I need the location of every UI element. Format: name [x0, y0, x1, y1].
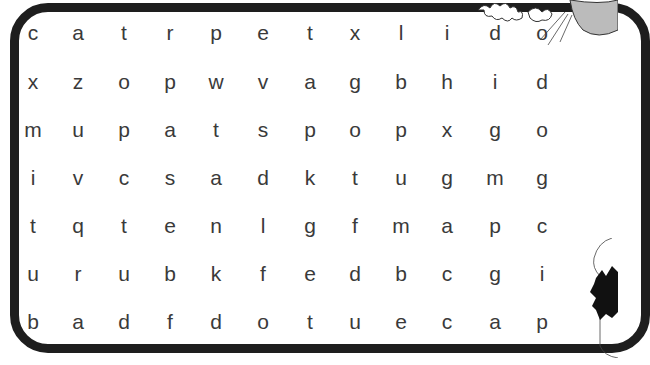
grid-letter[interactable]: d	[243, 166, 283, 190]
grid-letter[interactable]: e	[381, 310, 421, 334]
grid-letter[interactable]: s	[243, 118, 283, 142]
grid-letter[interactable]: p	[475, 214, 515, 238]
grid-letter[interactable]: x	[335, 21, 375, 45]
grid-letter[interactable]: h	[427, 70, 467, 94]
grid-letter[interactable]: a	[150, 118, 190, 142]
grid-letter[interactable]: a	[58, 310, 98, 334]
grid-letter[interactable]: t	[104, 214, 144, 238]
grid-letter[interactable]: a	[427, 214, 467, 238]
grid-letter[interactable]: o	[243, 310, 283, 334]
grid-letter[interactable]: u	[335, 310, 375, 334]
grid-letter[interactable]: v	[243, 70, 283, 94]
grid-letter[interactable]: o	[335, 118, 375, 142]
grid-letter[interactable]: p	[381, 118, 421, 142]
grid-letter[interactable]: p	[290, 118, 330, 142]
grid-letter[interactable]: s	[150, 166, 190, 190]
grid-letter[interactable]: t	[104, 21, 144, 45]
grid-letter[interactable]: u	[58, 118, 98, 142]
grid-letter[interactable]: b	[150, 262, 190, 286]
grid-letter[interactable]: u	[104, 262, 144, 286]
grid-letter[interactable]: p	[104, 118, 144, 142]
grid-letter[interactable]: b	[13, 310, 53, 334]
grid-letter[interactable]: z	[58, 70, 98, 94]
grid-letter[interactable]: a	[475, 310, 515, 334]
character-illustration-icon	[590, 238, 618, 358]
grid-letter[interactable]: o	[522, 118, 562, 142]
grid-letter[interactable]: p	[150, 70, 190, 94]
grid-letter[interactable]: m	[381, 214, 421, 238]
grid-letter[interactable]: c	[13, 21, 53, 45]
grid-letter[interactable]: t	[290, 310, 330, 334]
grid-letter[interactable]: x	[427, 118, 467, 142]
grid-letter[interactable]: a	[58, 21, 98, 45]
grid-letter[interactable]: g	[427, 166, 467, 190]
grid-letter[interactable]: g	[522, 166, 562, 190]
grid-letter[interactable]: u	[13, 262, 53, 286]
grid-letter[interactable]: g	[290, 214, 330, 238]
grid-letter[interactable]: t	[290, 21, 330, 45]
grid-letter[interactable]: r	[150, 21, 190, 45]
grid-letter[interactable]: w	[196, 70, 236, 94]
grid-letter[interactable]: t	[335, 166, 375, 190]
grid-letter[interactable]: e	[290, 262, 330, 286]
grid-letter[interactable]: a	[290, 70, 330, 94]
grid-letter[interactable]: k	[196, 262, 236, 286]
grid-letter[interactable]: k	[290, 166, 330, 190]
grid-letter[interactable]: i	[475, 70, 515, 94]
grid-letter[interactable]: q	[58, 214, 98, 238]
grid-letter[interactable]: m	[13, 118, 53, 142]
grid-letter[interactable]: c	[522, 214, 562, 238]
grid-letter[interactable]: e	[150, 214, 190, 238]
grid-letter[interactable]: v	[58, 166, 98, 190]
grid-letter[interactable]: c	[427, 262, 467, 286]
grid-letter[interactable]: t	[13, 214, 53, 238]
grid-letter[interactable]: e	[243, 21, 283, 45]
grid-letter[interactable]: i	[427, 21, 467, 45]
grid-letter[interactable]: g	[475, 118, 515, 142]
grid-letter[interactable]: n	[196, 214, 236, 238]
grid-letter[interactable]: p	[522, 310, 562, 334]
grid-letter[interactable]: a	[196, 166, 236, 190]
grid-letter[interactable]: c	[104, 166, 144, 190]
grid-letter[interactable]: u	[381, 166, 421, 190]
grid-letter[interactable]: r	[58, 262, 98, 286]
grid-letter[interactable]: g	[475, 262, 515, 286]
grid-letter[interactable]: d	[522, 70, 562, 94]
grid-letter[interactable]: f	[335, 214, 375, 238]
grid-letter[interactable]: i	[13, 166, 53, 190]
grid-letter[interactable]: i	[522, 262, 562, 286]
grid-letter[interactable]: p	[196, 21, 236, 45]
grid-letter[interactable]: l	[243, 214, 283, 238]
grid-letter[interactable]: f	[150, 310, 190, 334]
grid-letter[interactable]: b	[381, 70, 421, 94]
grid-letter[interactable]: f	[243, 262, 283, 286]
grid-letter[interactable]: x	[13, 70, 53, 94]
cat-illustration-icon	[470, 0, 618, 50]
grid-letter[interactable]: g	[335, 70, 375, 94]
grid-letter[interactable]: m	[475, 166, 515, 190]
grid-letter[interactable]: b	[381, 262, 421, 286]
grid-letter[interactable]: d	[335, 262, 375, 286]
grid-letter[interactable]: o	[104, 70, 144, 94]
grid-letter[interactable]: t	[196, 118, 236, 142]
grid-letter[interactable]: l	[381, 21, 421, 45]
grid-letter[interactable]: c	[427, 310, 467, 334]
grid-letter[interactable]: d	[196, 310, 236, 334]
grid-letter[interactable]: d	[104, 310, 144, 334]
